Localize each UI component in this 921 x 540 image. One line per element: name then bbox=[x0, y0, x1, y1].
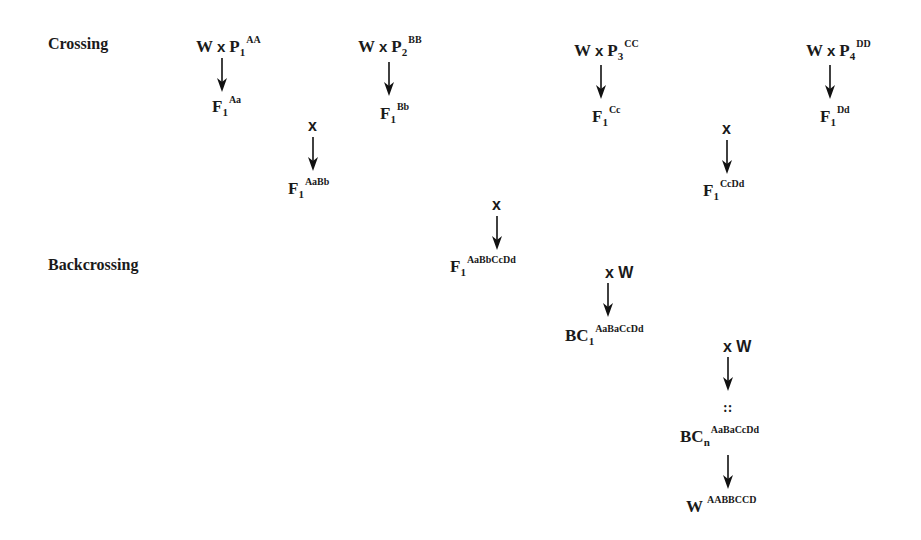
f1-bb: F1Bb bbox=[380, 105, 409, 122]
f1-dd: F1Dd bbox=[820, 108, 850, 125]
intercross-symbol-abcd: x bbox=[492, 196, 501, 214]
cross-1-parents: WxP1AA bbox=[196, 38, 261, 55]
down-arrow-icon bbox=[216, 58, 228, 92]
down-arrow-icon bbox=[824, 65, 836, 99]
wild-parent: W bbox=[358, 37, 375, 56]
crossing-label: Crossing bbox=[48, 35, 108, 53]
down-arrow-icon bbox=[602, 283, 614, 317]
cross-symbol: x bbox=[379, 38, 387, 55]
cross-symbol: x bbox=[595, 42, 603, 59]
f1-aabb: F1AaBb bbox=[288, 180, 329, 197]
cross-symbol: x bbox=[827, 42, 835, 59]
f1-ccdd: F1CcDd bbox=[703, 182, 744, 199]
down-arrow-icon bbox=[307, 137, 319, 171]
final-line: WAABBCCD bbox=[686, 498, 756, 515]
down-arrow-icon bbox=[722, 357, 734, 391]
down-arrow-icon bbox=[722, 455, 734, 489]
backcrossing-label: Backcrossing bbox=[48, 256, 138, 274]
down-arrow-icon bbox=[595, 65, 607, 99]
down-arrow-icon bbox=[721, 140, 733, 174]
donor-parent: P bbox=[391, 37, 401, 56]
bcn: BCnAaBaCcDd bbox=[680, 428, 759, 445]
backcross-1-symbol: x W bbox=[605, 264, 633, 282]
wild-parent: W bbox=[196, 37, 213, 56]
intercross-symbol-cd: x bbox=[722, 120, 731, 138]
f1-cc: F1Cc bbox=[592, 108, 621, 125]
intercross-symbol-ab: x bbox=[308, 117, 317, 135]
down-arrow-icon bbox=[491, 216, 503, 250]
down-arrow-icon bbox=[383, 62, 395, 96]
f1-aa: F1Aa bbox=[212, 98, 241, 115]
donor-parent: P bbox=[607, 41, 617, 60]
cross-4-parents: WxP4DD bbox=[806, 42, 871, 59]
cross-2-parents: WxP2BB bbox=[358, 38, 422, 55]
f1-aabbccdd: F1AaBbCcDd bbox=[450, 258, 516, 275]
backcross-n-symbol: x W bbox=[723, 338, 751, 356]
donor-parent: P bbox=[229, 37, 239, 56]
continuation-dots: :: bbox=[723, 401, 732, 415]
cross-symbol: x bbox=[217, 38, 225, 55]
bc1: BC1AaBaCcDd bbox=[565, 327, 643, 344]
cross-3-parents: WxP3CC bbox=[574, 42, 639, 59]
wild-parent: W bbox=[574, 41, 591, 60]
wild-parent: W bbox=[806, 41, 823, 60]
donor-parent: P bbox=[839, 41, 849, 60]
